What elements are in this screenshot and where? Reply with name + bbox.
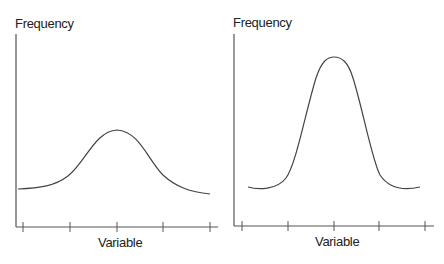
- chart-left: Frequency Variable: [0, 0, 222, 264]
- chart-right: Frequency Variable: [222, 0, 444, 264]
- plot-area: [0, 0, 222, 264]
- plot-area: [222, 0, 444, 264]
- distribution-curve: [248, 57, 420, 189]
- distribution-curve: [18, 130, 210, 194]
